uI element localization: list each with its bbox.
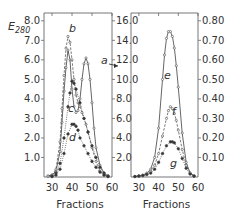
y-tick-label-right: 12.0 xyxy=(116,54,138,65)
y-tick-label-right: 14.0 xyxy=(116,35,138,46)
plot-frame xyxy=(44,13,112,177)
y-tick-label: 3.0 xyxy=(24,113,40,124)
figure: 30405060Fractions1.02.03.04.05.06.07.08.… xyxy=(0,0,228,212)
y-tick-label: 4.0 xyxy=(24,93,40,104)
curve-label-f: f xyxy=(172,105,178,118)
y-tick-label-right: 4.0 xyxy=(116,132,132,143)
y-tick-label-right: 8.0 xyxy=(116,93,132,104)
y-tick-label-right: 0.10 xyxy=(202,152,224,163)
x-axis-label: Fractions xyxy=(143,198,190,210)
x-tick-label: 50 xyxy=(172,182,185,193)
y-tick-label-right: 0.40 xyxy=(202,93,224,104)
x-tick-label: 50 xyxy=(86,182,99,193)
curve-label-b: b xyxy=(69,22,76,35)
y-tick-label: 5.0 xyxy=(24,74,40,85)
curve-label-e: e xyxy=(164,69,171,82)
curve-label-a: a xyxy=(101,54,108,67)
x-tick-label: 60 xyxy=(106,182,119,193)
y-tick-label-right: 16.0 xyxy=(116,15,138,26)
y-tick-label-right: 10.0 xyxy=(116,74,138,85)
y-tick-label-right: 0.70 xyxy=(202,35,224,46)
y-tick-label: 1.0 xyxy=(24,152,40,163)
series-e xyxy=(135,32,194,177)
y-tick-label-right: 6.0 xyxy=(116,113,132,124)
y-tick-label-right: 0.50 xyxy=(202,74,224,85)
y-tick-label: 8.0 xyxy=(24,15,40,26)
curve-label-c: c xyxy=(68,102,74,115)
y-tick-label: 2.0 xyxy=(24,132,40,143)
x-tick-label: 40 xyxy=(66,182,79,193)
x-tick-label: 30 xyxy=(133,182,146,193)
series-g xyxy=(135,142,194,177)
x-tick-label: 60 xyxy=(192,182,205,193)
x-axis-label: Fractions xyxy=(56,198,103,210)
y-tick-label: 7.0 xyxy=(24,35,40,46)
x-tick-label: 40 xyxy=(152,182,165,193)
curve-label-g: g xyxy=(170,157,177,170)
curve-label-d: d xyxy=(69,131,77,144)
y-tick-label: 6.0 xyxy=(24,54,40,65)
y-tick-label-right: 0.80 xyxy=(202,15,224,26)
right-panel: 30405060Fractions0.100.200.300.400.500.6… xyxy=(131,13,224,210)
plot-frame xyxy=(131,13,198,177)
y-tick-label-right: 2.0 xyxy=(116,152,132,163)
left-panel: 30405060Fractions1.02.03.04.05.06.07.08.… xyxy=(24,13,138,210)
y-tick-label-right: 0.60 xyxy=(202,54,224,65)
series-b xyxy=(48,36,108,176)
y-tick-label-right: 0.30 xyxy=(202,113,224,124)
y-tick-label-right: 0.20 xyxy=(202,132,224,143)
series-a xyxy=(48,50,108,176)
x-tick-label: 30 xyxy=(46,182,59,193)
